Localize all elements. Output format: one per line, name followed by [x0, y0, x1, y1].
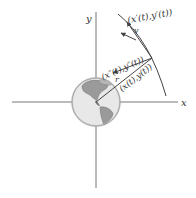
y-axis-label: y — [85, 13, 92, 24]
orbit-diagram: y x (x′(t),y′(t)) v (x″(t),y″(t)) r (x(t… — [0, 0, 196, 198]
velocity-arrow — [127, 22, 152, 58]
velocity-symbol: v — [134, 26, 139, 35]
radius-symbol: r — [115, 75, 120, 84]
x-axis-label: x — [181, 97, 187, 108]
velocity-label: (x′(t),y′(t)) — [127, 7, 174, 25]
